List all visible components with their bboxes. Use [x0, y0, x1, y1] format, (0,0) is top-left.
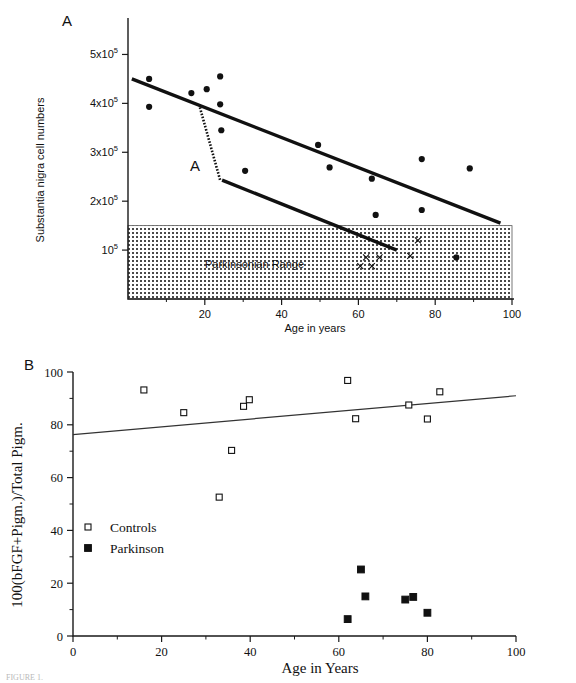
panel-b-x-tick-label: 40	[244, 645, 257, 659]
data-point-control	[141, 387, 147, 393]
panel-b-axes	[67, 372, 516, 642]
data-point-parkinson	[344, 616, 351, 623]
parkinsonian-range-label: Parkinsonian Range	[205, 258, 304, 270]
parkinsonian-range-band	[128, 226, 512, 299]
panel-b: B 020406080100020406080100 (No significa…	[0, 340, 576, 683]
panel-b-x-tick-label: 20	[155, 645, 168, 659]
upper-normal-aging-line	[132, 79, 501, 223]
panel-a-annotation-arrow: A	[190, 104, 220, 180]
panel-a-svg: A A 1052x1053x1054x1055x10520406080100 A…	[0, 0, 576, 340]
data-point-parkinson	[362, 593, 369, 600]
data-point-control	[246, 397, 252, 403]
data-point-circle	[242, 168, 248, 174]
panel-a-x-tick-label: 100	[503, 308, 521, 320]
panel-b-data-points	[141, 377, 443, 622]
data-point-circle	[218, 127, 224, 133]
panel-a-y-axis-title: Substantia nigra cell numbers	[34, 97, 46, 242]
panel-a-x-tick-label: 20	[199, 308, 211, 320]
panel-b-y-tick-label: 20	[51, 577, 64, 591]
data-point-circle	[419, 207, 425, 213]
panel-a-letter: A	[62, 12, 72, 29]
data-point-parkinson	[424, 609, 431, 616]
data-point-control	[353, 416, 359, 422]
data-point-control	[181, 410, 187, 416]
data-point-control	[345, 377, 351, 383]
panel-a: A A 1052x1053x1054x1055x10520406080100 A…	[0, 0, 576, 340]
data-point-control	[424, 416, 430, 422]
data-point-circle	[217, 73, 223, 79]
legend-marker-controls	[85, 524, 91, 530]
panel-a-x-tick-label: 80	[429, 308, 441, 320]
panel-a-y-tick-label: 105	[102, 242, 118, 256]
data-point-circle	[217, 101, 223, 107]
legend-marker-parkinson	[85, 545, 92, 552]
panel-b-x-tick-label: 100	[507, 645, 526, 659]
panel-b-y-axis-title: 100(bFGF+Pigm.)/Total Pigm.	[9, 422, 26, 607]
panel-a-y-tick-label: 3x105	[90, 144, 118, 158]
data-point-circle	[146, 76, 152, 82]
annotation-letter-a: A	[190, 157, 200, 174]
data-point-control	[406, 402, 412, 408]
data-point-control	[229, 447, 235, 453]
panel-b-y-tick-label: 0	[57, 630, 63, 644]
data-point-parkinson	[402, 596, 409, 603]
panel-a-y-tick-label: 4x105	[90, 95, 118, 109]
panel-b-tick-labels: 020406080100020406080100	[44, 366, 525, 660]
data-point-control	[241, 403, 247, 409]
panel-a-trend-lines	[132, 79, 501, 250]
data-point-circle	[315, 142, 321, 148]
data-point-control	[216, 494, 222, 500]
data-point-circle	[419, 156, 425, 162]
data-point-parkinson	[410, 594, 417, 601]
data-point-circle	[327, 164, 333, 170]
panel-b-letter: B	[24, 356, 34, 373]
panel-b-y-tick-label: 40	[51, 524, 64, 538]
panel-b-y-tick-label: 60	[51, 471, 64, 485]
panel-b-regression-line	[73, 396, 516, 435]
panel-a-y-tick-label: 2x105	[90, 193, 118, 207]
panel-b-svg: B 020406080100020406080100 (No significa…	[0, 340, 576, 683]
panel-b-x-tick-label: 60	[333, 645, 346, 659]
panel-b-y-tick-label: 80	[51, 418, 64, 432]
data-point-circle	[204, 86, 210, 92]
panel-a-y-tick-label: 5x105	[90, 46, 118, 60]
controls-regression	[73, 396, 516, 435]
panel-a-x-tick-label: 40	[275, 308, 287, 320]
panel-a-x-tick-label: 60	[352, 308, 364, 320]
panel-b-x-tick-label: 80	[421, 645, 434, 659]
legend-label-controls: Controls	[110, 520, 157, 535]
data-point-circle	[188, 90, 194, 96]
panel-b-x-tick-label: 0	[70, 645, 76, 659]
panel-a-x-axis-title: Age in years	[284, 322, 346, 334]
data-point-circle	[373, 212, 379, 218]
data-point-control	[437, 389, 443, 395]
figure-caption-clipped: FIGURE 1.	[6, 673, 566, 683]
data-point-parkinson	[358, 566, 365, 573]
data-point-circle	[369, 176, 375, 182]
panel-b-legend: ControlsParkinson	[85, 520, 165, 556]
data-point-circle	[146, 104, 152, 110]
panel-b-y-tick-label: 100	[44, 366, 63, 380]
data-point-circle	[453, 254, 459, 260]
legend-label-parkinson: Parkinson	[110, 541, 164, 556]
data-point-circle	[467, 165, 473, 171]
figure-container: A A 1052x1053x1054x1055x10520406080100 A…	[0, 0, 576, 683]
